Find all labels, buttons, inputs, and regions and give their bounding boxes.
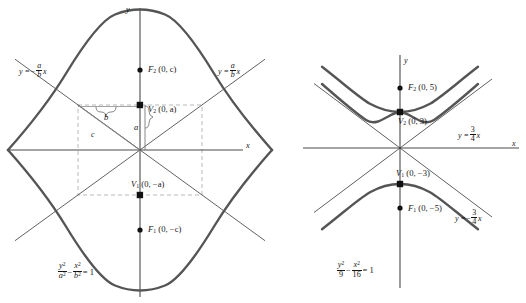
f2-index: 2 (153, 68, 156, 74)
left-eq-den1: a2 (58, 271, 67, 281)
rasym-pos-lhs: y = (458, 131, 469, 140)
asym-neg-var: x (43, 67, 47, 76)
rv1-coords: (0, −3) (406, 168, 429, 178)
rf2-coords: (0, 5) (418, 82, 437, 92)
left-eq-n1-sq: 2 (63, 261, 66, 267)
left-eq-d2-sq: 2 (78, 271, 81, 277)
right-asymptote-negative (314, 84, 492, 218)
asym-pos-fraction: ab (230, 62, 236, 79)
right-eq-num2: x2 (352, 261, 362, 270)
asym-pos-lhs: y = (218, 67, 229, 76)
left-panel (8, 8, 272, 297)
rv1-index: 1 (401, 172, 404, 178)
right-vertex-upper-point (397, 109, 403, 115)
left-asymptote-negative-label: y =−abx (19, 62, 47, 79)
left-y-axis-label: y (126, 6, 130, 14)
right-eq-minus: − (346, 265, 351, 275)
left-equation: y2 a2 − x2 b2 = 1 (57, 262, 94, 281)
right-eq-rhs: = 1 (363, 265, 374, 275)
right-focus-lower-label: F1 (0, −5) (408, 204, 442, 214)
f2-coords: (0, c) (158, 64, 176, 74)
f1-coords: (0, −c) (158, 224, 181, 234)
right-vertex-lower-point (397, 181, 403, 187)
asym-neg-lhs: y = (19, 67, 30, 76)
left-focus-upper-label: F2 (0, c) (148, 65, 176, 75)
right-focus-upper-point (397, 85, 402, 90)
segment-a-label: a (134, 123, 138, 132)
rasym-pos-fraction: 34 (470, 126, 476, 143)
right-asymptote-positive-label: y =34x (458, 126, 480, 143)
asym-pos-den: b (230, 70, 236, 79)
left-eq-den2: b2 (73, 271, 82, 281)
left-focus-lower-label: F1 (0, −c) (148, 225, 181, 235)
left-eq-rhs: = 1 (83, 267, 94, 277)
asym-neg-fraction: ab (36, 62, 42, 79)
rv2-index: 2 (403, 120, 406, 126)
rasym-pos-num: 3 (470, 126, 476, 134)
asym-pos-num: a (230, 62, 236, 70)
rasym-pos-var: x (477, 131, 481, 140)
rasym-pos-den: 4 (470, 134, 476, 143)
rf2-index: 2 (413, 86, 416, 92)
left-vertex-lower-label: V1 (0, −a) (131, 180, 164, 190)
right-eq-den1: 9 (337, 270, 345, 279)
rasym-neg-fraction: 34 (471, 209, 477, 226)
rasym-neg-den: 4 (471, 217, 477, 226)
right-x-axis-label: x (512, 140, 516, 148)
left-eq-d1-sq: 2 (63, 271, 66, 277)
v1-index: 1 (136, 183, 139, 189)
v2-index: 2 (153, 108, 156, 114)
left-eq-term2: x2 b2 (73, 262, 82, 281)
rf1-index: 1 (413, 207, 416, 213)
segment-c-line-shadow (80, 107, 142, 152)
left-eq-minus: − (67, 267, 72, 277)
segment-b-label: b (104, 113, 108, 122)
left-vertex-upper-label: V2 (0, a) (148, 105, 176, 115)
vertex-lower-point (137, 192, 143, 198)
left-eq-term1: y2 a2 (58, 262, 67, 281)
right-eq-den2: 16 (352, 270, 362, 279)
right-focus-upper-label: F2 (0, 5) (408, 83, 437, 93)
asym-pos-var: x (237, 67, 241, 76)
rasym-neg-sign: − (466, 214, 471, 223)
f1-index: 1 (153, 228, 156, 234)
rasym-neg-var: x (478, 214, 482, 223)
right-eq-n2-sq: 2 (357, 260, 360, 266)
rf1-coords: (0, −5) (418, 203, 441, 213)
v1-coords: (0, −a) (141, 179, 164, 189)
vertex-upper-point (137, 102, 143, 108)
left-asymptote-positive-label: y =abx (218, 62, 240, 79)
rasym-neg-lhs: y = (455, 214, 466, 223)
focus-lower-point (137, 227, 142, 232)
right-y-axis-label: y (404, 57, 408, 65)
asym-neg-den: b (36, 70, 42, 79)
right-eq-term2: x2 16 (352, 261, 362, 279)
rv2-coords: (0, 3) (408, 116, 427, 126)
figure-canvas: y x y =−abx y =abx F2 (0, c) V2 (0, a) V… (0, 0, 526, 303)
left-x-axis-label: x (246, 142, 250, 150)
segment-c-label: c (91, 131, 95, 139)
asym-neg-sign: − (30, 67, 35, 76)
left-eq-num2: x2 (73, 262, 82, 271)
right-vertex-upper-label: V2 (0, 3) (398, 117, 427, 127)
left-eq-n2-sq: 2 (78, 261, 81, 267)
right-focus-lower-point (397, 205, 402, 210)
rasym-neg-num: 3 (471, 209, 477, 217)
right-eq-num1: y2 (337, 261, 345, 270)
right-eq-term1: y2 9 (337, 261, 345, 279)
hyperbola-graphics (0, 0, 526, 303)
right-equation: y2 9 − x2 16 = 1 (336, 261, 374, 279)
right-vertex-lower-label: V1 (0, −3) (396, 169, 430, 179)
left-eq-num1: y2 (58, 262, 67, 271)
v2-coords: (0, a) (158, 104, 176, 114)
right-asymptote-negative-label: y =−34x (455, 209, 482, 226)
focus-upper-point (137, 67, 142, 72)
asym-neg-num: a (36, 62, 42, 70)
right-eq-n1-sq: 2 (341, 260, 344, 266)
